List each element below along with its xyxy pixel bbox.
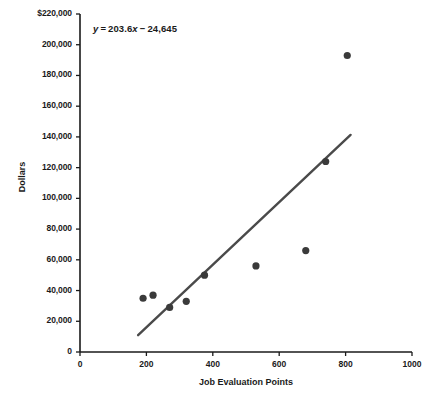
x-tick-label: 0	[55, 359, 105, 369]
x-tick-label: 600	[254, 359, 304, 369]
data-point	[183, 298, 190, 305]
y-tick-label: 100,000	[0, 192, 72, 202]
equation-x-variable: x	[132, 23, 137, 34]
data-point	[166, 304, 173, 311]
x-tick-label: 200	[121, 359, 171, 369]
y-tick-label: 160,000	[0, 100, 72, 110]
axis-ticks	[76, 14, 412, 356]
y-tick-label: 140,000	[0, 131, 72, 141]
x-axis-label: Job Evaluation Points	[80, 377, 412, 387]
chart-axes	[80, 14, 412, 352]
y-axis-label: Dollars	[17, 147, 27, 207]
data-point	[302, 247, 309, 254]
equation-equals-sign: =	[98, 23, 108, 34]
y-tick-label: 40,000	[0, 285, 72, 295]
data-points	[139, 52, 350, 311]
y-tick-label: $220,000	[0, 8, 72, 18]
y-tick-label: 120,000	[0, 162, 72, 172]
y-tick-label: 60,000	[0, 254, 72, 264]
x-tick-label: 800	[321, 359, 371, 369]
data-point	[252, 262, 259, 269]
regression-equation-annotation: y=203.6x−24,645	[93, 23, 177, 34]
x-tick-label: 400	[188, 359, 238, 369]
y-tick-label: 200,000	[0, 39, 72, 49]
data-point	[322, 158, 329, 165]
y-tick-label: 20,000	[0, 315, 72, 325]
x-tick-label: 1000	[387, 359, 433, 369]
data-point	[149, 292, 156, 299]
y-tick-label: 180,000	[0, 69, 72, 79]
equation-intercept: 24,645	[147, 23, 177, 34]
y-tick-label: 80,000	[0, 223, 72, 233]
y-tick-label: 0	[0, 346, 72, 356]
scatter-chart: 020,00040,00060,00080,000100,000120,0001…	[0, 0, 433, 402]
data-point	[139, 295, 146, 302]
data-point	[201, 272, 208, 279]
equation-minus-sign: −	[138, 23, 148, 34]
data-point	[344, 52, 351, 59]
equation-slope: 203.6	[108, 23, 132, 34]
